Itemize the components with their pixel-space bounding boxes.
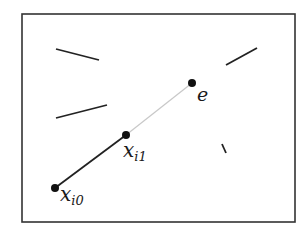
point-x-i0 bbox=[51, 184, 59, 192]
label-x-i0-sub: i0 bbox=[71, 193, 83, 208]
point-e bbox=[188, 79, 196, 87]
label-x-i1-sub: i1 bbox=[134, 149, 146, 164]
label-x-i1-base: x bbox=[123, 138, 134, 162]
diagram-canvas: e xi1 xi0 bbox=[0, 0, 306, 231]
label-e: e bbox=[197, 83, 208, 105]
label-x-i0-base: x bbox=[60, 182, 71, 206]
